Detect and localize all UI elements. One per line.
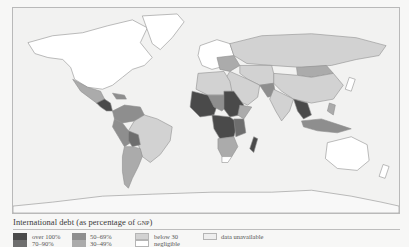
- legend-title: International debt (as percentage of gnp…: [13, 217, 152, 227]
- legend-label: data unavailable: [221, 233, 263, 240]
- legend-label: 50–69%: [90, 233, 112, 240]
- legend-swatch: [135, 233, 149, 240]
- legend-swatch: [13, 233, 27, 240]
- legend-label: over 100%: [32, 233, 60, 240]
- legend-swatch: [72, 240, 86, 247]
- legend-title-text: International debt (as percentage of: [13, 217, 137, 227]
- world-map: [12, 7, 400, 214]
- legend-swatch: [135, 240, 149, 247]
- world-map-svg: [13, 8, 399, 213]
- legend-title-abbr: gnp: [137, 218, 149, 227]
- legend-swatch: [203, 233, 217, 240]
- legend: over 100% 70–90% 50–69% 30–49% below 30 …: [13, 233, 403, 247]
- legend-swatch: [13, 240, 27, 247]
- legend-label: below 30: [154, 233, 178, 240]
- legend-label: negligible: [154, 240, 180, 247]
- legend-divider: [13, 229, 400, 230]
- legend-label: 70–90%: [32, 240, 54, 247]
- legend-title-end: ): [150, 217, 153, 227]
- legend-swatch: [72, 233, 86, 240]
- legend-label: 30–49%: [90, 240, 112, 247]
